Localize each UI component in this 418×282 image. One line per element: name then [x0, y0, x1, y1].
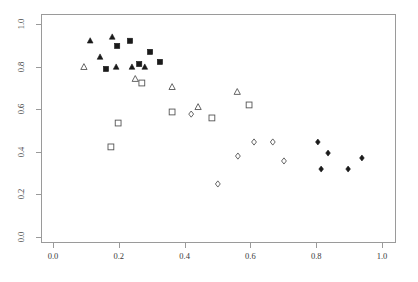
- plot-frame: [41, 14, 396, 243]
- y-axis-tick-label: 0.0: [16, 227, 26, 247]
- scatter-plot-figure: 0.00.20.40.60.81.00.00.20.40.60.81.0: [0, 0, 418, 282]
- x-axis-tick: [119, 243, 120, 248]
- x-axis-tick-label: 1.0: [377, 251, 388, 261]
- y-axis-tick-label: 1.0: [16, 14, 26, 34]
- y-axis-tick: [36, 24, 41, 25]
- x-axis-tick-label: 0.6: [245, 251, 256, 261]
- x-axis-tick: [382, 243, 383, 248]
- y-axis-tick: [36, 237, 41, 238]
- x-axis-tick: [316, 243, 317, 248]
- x-axis-tick-label: 0.4: [179, 251, 190, 261]
- x-axis-tick-label: 0.0: [48, 251, 59, 261]
- y-axis-tick: [36, 152, 41, 153]
- y-axis-tick: [36, 194, 41, 195]
- x-axis-tick: [250, 243, 251, 248]
- x-axis-tick: [185, 243, 186, 248]
- y-axis-tick: [36, 109, 41, 110]
- x-axis-tick: [53, 243, 54, 248]
- y-axis-tick-label: 0.2: [16, 184, 26, 204]
- x-axis-tick-label: 0.8: [311, 251, 322, 261]
- x-axis-tick-label: 0.2: [113, 251, 124, 261]
- y-axis-tick-label: 0.8: [16, 57, 26, 77]
- y-axis-tick-label: 0.6: [16, 99, 26, 119]
- y-axis-tick-label: 0.4: [16, 142, 26, 162]
- y-axis-tick: [36, 67, 41, 68]
